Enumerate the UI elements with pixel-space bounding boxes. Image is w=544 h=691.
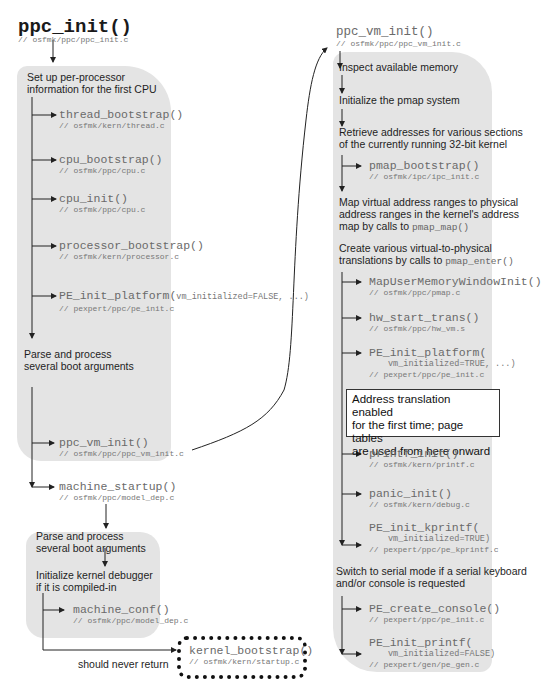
function-path: // osfmk/ppc/cpu.c — [59, 166, 163, 176]
call-pe-init-platform-true: PE_init_platform( vm_initialized=TRUE, .… — [369, 346, 516, 380]
step-text-line: Switch to serial mode if a serial keyboa… — [336, 565, 527, 577]
function-args: vm_initialized=FALSE, ...) — [176, 292, 309, 302]
function-args: vm_initialized=TRUE) — [369, 534, 499, 545]
function-name: PE_init_kprintf( — [369, 521, 499, 534]
function-name: printf_init() — [369, 447, 475, 460]
step-text-line: map by calls to — [339, 220, 412, 232]
step-text-line: several boot arguments — [24, 360, 134, 372]
inline-function: pmap_map() — [412, 222, 469, 233]
function-path: // osfmk/ipc/ipc_init.c — [369, 172, 479, 182]
function-name: cpu_bootstrap() — [59, 153, 163, 166]
call-map-user-memory-window-init: MapUserMemoryWindowInit() // osfmk/ppc/p… — [369, 275, 542, 298]
step-text-line: several boot arguments — [36, 542, 146, 554]
function-path: // osfmk/ppc/pmap.c — [369, 288, 542, 298]
function-name: machine_conf() — [73, 603, 188, 616]
step-text-line: address ranges in the kernel's address — [339, 208, 519, 220]
function-args: vm_initialized=TRUE, ...) — [369, 359, 516, 370]
function-name: kernel_bootstrap() — [189, 644, 295, 657]
function-name: panic_init() — [369, 487, 470, 500]
function-name: pmap_bootstrap() — [369, 159, 479, 172]
step-text-line: Map virtual address ranges to physical — [339, 196, 519, 208]
function-path: // osfmk/kern/processor.c — [59, 252, 204, 262]
call-pe-init-printf: PE_init_printf( vm_initialized=FALSE) //… — [369, 636, 495, 670]
function-path: // osfmk/ppc/model_dep.c — [59, 493, 176, 503]
kernel-bootstrap-box: kernel_bootstrap() // osfmk/kern/startup… — [177, 636, 307, 679]
call-pe-create-console: PE_create_console() // pexpert/ppc/pe_in… — [369, 602, 500, 625]
function-name: PE_init_printf( — [369, 636, 495, 649]
function-path: // osfmk/kern/thread.c — [59, 121, 183, 131]
step-parse-boot-args: Parse and process several boot arguments — [24, 348, 134, 372]
sub-step-parse-boot-args: Parse and process several boot arguments — [36, 530, 146, 554]
step-text-line: Create various virtual-to-physical — [339, 242, 514, 254]
call-panic-init: panic_init() // osfmk/kern/debug.c — [369, 487, 470, 510]
function-name: PE_create_console() — [369, 602, 500, 615]
function-name: PE_init_platform( — [59, 289, 176, 302]
function-name: ppc_vm_init() — [59, 436, 184, 449]
address-translation-note: Address translation enabled for the firs… — [346, 389, 500, 437]
step-text-line: of the currently running 32-bit kernel — [339, 138, 523, 150]
function-name: PE_init_platform( — [369, 346, 516, 359]
ppc-vm-init-path: // osfmk/ppc/ppc_vm_init.c — [336, 39, 461, 49]
function-path: // pexpert/ppc/pe_init.c — [369, 370, 516, 380]
never-return-label: should never return — [78, 658, 168, 670]
call-machine-conf: machine_conf() // osfmk/ppc/model_dep.c — [73, 603, 188, 626]
function-name: MapUserMemoryWindowInit() — [369, 275, 542, 288]
function-name: machine_startup() — [59, 480, 176, 493]
function-path: // osfmk/ppc/cpu.c — [59, 205, 145, 215]
step-create-translations: Create various virtual-to-physical trans… — [339, 242, 514, 268]
step-retrieve-addresses: Retrieve addresses for various sections … — [339, 126, 523, 150]
call-pe-init-platform-false: PE_init_platform(vm_initialized=FALSE, .… — [59, 289, 309, 314]
step-text-line: and/or console is requested — [336, 577, 527, 589]
ppc-vm-init-title: ppc_vm_init() — [336, 26, 434, 39]
step-text-line: Retrieve addresses for various sections — [339, 126, 523, 138]
step-serial-mode: Switch to serial mode if a serial keyboa… — [336, 565, 527, 589]
step-init-pmap: Initialize the pmap system — [339, 94, 460, 106]
function-name: thread_bootstrap() — [59, 108, 183, 121]
note-line: for the first time; page tables — [352, 419, 494, 445]
call-pmap-bootstrap: pmap_bootstrap() // osfmk/ipc/ipc_init.c — [369, 159, 479, 182]
step-text-line: Parse and process — [24, 348, 134, 360]
note-line: Address translation enabled — [352, 393, 494, 419]
step-text-line: information for the first CPU — [27, 83, 157, 95]
function-name: cpu_init() — [59, 192, 145, 205]
function-name: hw_start_trans() — [369, 311, 479, 324]
call-ppc-vm-init: ppc_vm_init() // osfmk/ppc/ppc_vm_init.c — [59, 436, 184, 459]
call-hw-start-trans: hw_start_trans() // osfmk/ppc/hw_vm.s — [369, 311, 479, 334]
call-processor-bootstrap: processor_bootstrap() // osfmk/kern/proc… — [59, 239, 204, 262]
function-path: // osfmk/kern/debug.c — [369, 500, 470, 510]
function-path: // osfmk/ppc/ppc_vm_init.c — [59, 449, 184, 459]
call-thread-bootstrap: thread_bootstrap() // osfmk/kern/thread.… — [59, 108, 183, 131]
function-path: // pexpert/ppc/pe_init.c — [369, 615, 500, 625]
function-path: // pexpert/ppc/pe_kprintf.c — [369, 545, 499, 555]
function-name: processor_bootstrap() — [59, 239, 204, 252]
step-text-line: translations by calls to — [339, 254, 445, 266]
call-cpu-bootstrap: cpu_bootstrap() // osfmk/ppc/cpu.c — [59, 153, 163, 176]
step-text-line: if it is compiled-in — [36, 581, 153, 593]
step-text-line: Initialize kernel debugger — [36, 569, 153, 581]
function-path: // osfmk/ppc/hw_vm.s — [369, 324, 479, 334]
function-args: vm_initialized=FALSE) — [369, 649, 495, 660]
function-path: // pexpert/gen/pe_gen.c — [369, 660, 495, 670]
step-setup-per-processor: Set up per-processor information for the… — [27, 71, 157, 95]
function-path: // osfmk/kern/printf.c — [369, 460, 475, 470]
call-printf-init: printf_init() // osfmk/kern/printf.c — [369, 447, 475, 470]
step-text-line: Set up per-processor — [27, 71, 157, 83]
call-cpu-init: cpu_init() // osfmk/ppc/cpu.c — [59, 192, 145, 215]
inline-function: pmap_enter() — [445, 256, 513, 267]
function-path: // osfmk/kern/startup.c — [189, 657, 295, 667]
step-inspect-memory: Inspect available memory — [339, 61, 458, 73]
call-pe-init-kprintf: PE_init_kprintf( vm_initialized=TRUE) //… — [369, 521, 499, 555]
function-path: // osfmk/ppc/model_dep.c — [73, 616, 188, 626]
ppc-init-title: ppc_init() — [18, 17, 132, 37]
sub-step-init-debugger: Initialize kernel debugger if it is comp… — [36, 569, 153, 593]
ppc-init-path: // osfmk/ppc/ppc_init.c — [18, 35, 128, 45]
step-map-virtual: Map virtual address ranges to physical a… — [339, 196, 519, 234]
call-machine-startup: machine_startup() // osfmk/ppc/model_dep… — [59, 480, 176, 503]
function-path: // pexpert/ppc/pe_init.c — [59, 304, 309, 314]
step-text-line: Parse and process — [36, 530, 146, 542]
